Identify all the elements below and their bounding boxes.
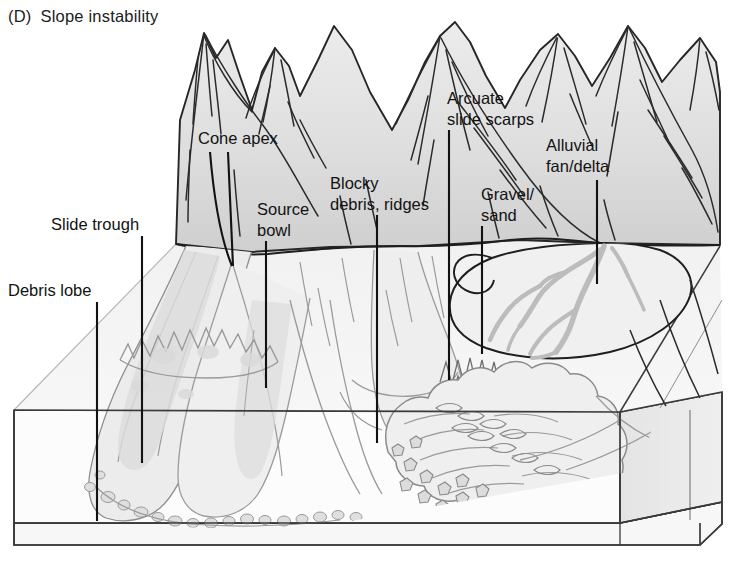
label-blocky-debris-line1: Blocky: [330, 174, 379, 192]
label-source-bowl-line1: Source: [257, 200, 309, 218]
label-slide-trough: Slide trough: [51, 215, 139, 233]
label-arcuate-slide-scarps-line2: slide scarps: [447, 110, 534, 128]
block-right-face: [620, 392, 722, 523]
label-blocky-debris-line2: debris, ridges: [330, 195, 429, 213]
label-source-bowl-line2: bowl: [257, 221, 291, 239]
label-arcuate-slide-scarps-line1: Arcuate: [447, 89, 504, 107]
figure-root: (D)Slope instability: [0, 0, 738, 561]
label-gravel-sand-line2: sand: [481, 206, 517, 224]
label-alluvial-fan-delta-line2: fan/delta: [546, 157, 610, 175]
label-debris-lobe: Debris lobe: [8, 281, 91, 299]
label-alluvial-fan-delta-line1: Alluvial: [546, 136, 598, 154]
label-gravel-sand-line1: Gravel/: [481, 185, 535, 203]
label-cone-apex: Cone apex: [198, 129, 279, 147]
block-diagram: Cone apex Arcuate slide scarps Alluvial …: [0, 0, 738, 561]
